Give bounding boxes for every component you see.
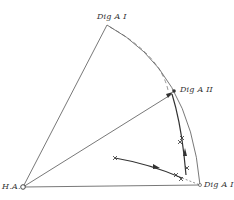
label-origin: H.A.	[2, 183, 21, 191]
track-markers	[113, 136, 189, 181]
radius-to-top	[23, 25, 107, 187]
radius-to-right	[23, 185, 200, 187]
track-lower	[115, 158, 182, 178]
arrowhead-track-right	[153, 164, 160, 169]
label-middle: Dig A II	[180, 86, 213, 94]
dashed-connector	[182, 178, 200, 185]
outer-arc	[107, 25, 200, 185]
track-upper	[172, 94, 186, 175]
middle-point-icon	[172, 89, 176, 93]
diagram-canvas	[0, 0, 234, 200]
right-point-icon	[199, 184, 202, 187]
label-right: Dig A I	[204, 181, 234, 189]
cross-icon	[178, 140, 182, 144]
origin-circle-icon	[21, 185, 26, 190]
radius-to-middle	[23, 94, 172, 187]
dashed-arc	[110, 27, 168, 90]
label-top: Dig A I	[97, 13, 127, 21]
